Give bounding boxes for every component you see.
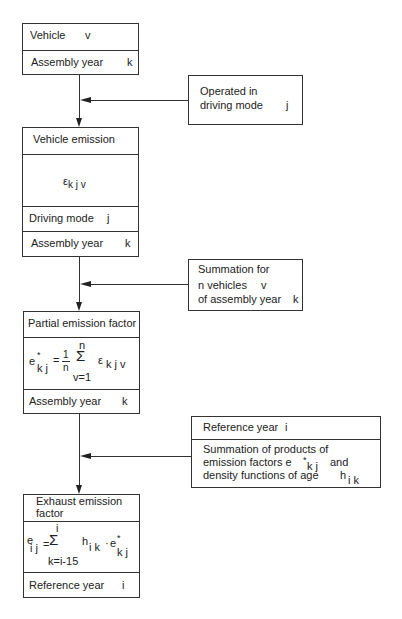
vehicle-box: Vehicle v Assembly year k	[22, 23, 139, 75]
exhaust-formula-cell: e i j = i Σ k=i-15 h i k · e * k j	[24, 521, 139, 572]
epsilon-formula: εk j v	[63, 175, 86, 188]
sigma-icon: Σ	[49, 533, 58, 546]
products-line-3: density functions of age	[203, 469, 319, 482]
summation-line-1: Summation for	[198, 263, 270, 275]
reference-year-label: Reference year	[203, 421, 278, 434]
frac-num: 1	[63, 348, 69, 361]
products-e-star: *	[303, 454, 307, 467]
partial-emission-formula-cell: e * k j = 1 n n Σ v=1 ε k j v	[24, 337, 139, 389]
connector-3-4	[79, 413, 80, 486]
exhaust-line-2: factor	[36, 507, 64, 520]
arrow-down-icon	[76, 302, 82, 311]
reference-year-header: Reference year i	[192, 417, 380, 439]
sum-lower: k=i-15	[48, 555, 78, 568]
assembly-year-cell: Assembly year k	[23, 231, 138, 257]
vehicle-label: Vehicle	[30, 29, 65, 42]
products-line-1: Summation of products of	[203, 443, 328, 456]
partial-emission-label: Partial emission factor	[28, 317, 136, 330]
summation-products-cell: Summation of products of emission factor…	[192, 439, 380, 488]
partial-emission-header: Partial emission factor	[24, 312, 139, 337]
frac-den: n	[63, 361, 69, 374]
vehicle-emission-box: Vehicle emission εk j v Driving mode j A…	[22, 127, 139, 257]
arrow-left-icon	[80, 281, 91, 287]
reference-year-var: i	[285, 421, 287, 434]
operated-line-1: Operated in	[200, 85, 257, 97]
vehicle-emission-header: Vehicle emission	[23, 128, 138, 154]
arrow-left-icon	[80, 97, 91, 103]
arrow-left-icon	[80, 453, 91, 459]
e2-star: *	[117, 532, 121, 545]
summation-line-3: of assembly year	[198, 293, 281, 305]
epsilon-subscript: k j v	[68, 179, 86, 190]
exhaust-emission-header: Exhaust emission factor	[24, 495, 139, 521]
operated-in-driving-mode-box: Operated in driving mode j	[188, 75, 303, 125]
lhs-star: *	[37, 349, 41, 362]
equals: =	[53, 354, 59, 367]
driving-mode-cell: Driving mode j	[23, 206, 138, 231]
side-connector-3	[90, 456, 191, 457]
assembly-year-label: Assembly year	[31, 56, 103, 69]
h-term: h	[82, 535, 88, 548]
lhs-e: e	[29, 355, 35, 368]
assembly-year-cell: Assembly year k	[23, 50, 138, 75]
vehicle-emission-formula-cell: εk j v	[23, 154, 138, 206]
vehicle-emission-label: Vehicle emission	[33, 133, 115, 146]
products-line-2: emission factors e	[203, 456, 292, 469]
summation-line-2: n vehicles	[198, 279, 247, 291]
vehicle-cell: Vehicle v	[23, 24, 138, 50]
connector-2-3	[79, 256, 80, 303]
products-h: h	[340, 469, 346, 482]
lhs-sub: i j	[30, 542, 38, 555]
reference-year-cell: Reference year i	[24, 572, 139, 598]
assembly-year-label: Assembly year	[31, 237, 103, 250]
sum-lower: v=1	[73, 371, 91, 384]
operated-var: j	[286, 99, 288, 111]
summation-var-v: v	[261, 279, 267, 291]
dot: ·	[105, 537, 109, 550]
assembly-year-label: Assembly year	[29, 395, 101, 408]
side-connector-2	[90, 284, 188, 285]
driving-mode-var: j	[107, 212, 109, 225]
assembly-year-var: k	[127, 56, 133, 69]
partial-emission-factor-box: Partial emission factor e * k j = 1 n n …	[23, 311, 140, 414]
assembly-year-var: k	[125, 237, 131, 250]
h-sub: i k	[89, 541, 100, 554]
e2-term: e	[110, 537, 116, 550]
vehicle-var: v	[85, 29, 91, 42]
arrow-down-icon	[76, 118, 82, 127]
reference-year-var: i	[122, 579, 124, 592]
exhaust-emission-factor-box: Exhaust emission factor e i j = i Σ k=i-…	[23, 494, 140, 598]
lhs-sub: k j	[37, 362, 48, 375]
sigma-icon: Σ	[76, 349, 85, 362]
e2-sub: k j	[117, 546, 128, 559]
driving-mode-label: Driving mode	[29, 212, 94, 225]
reference-year-summation-box: Reference year i Summation of products o…	[191, 416, 381, 488]
assembly-year-var: k	[122, 395, 128, 408]
products-h-sub: i k	[348, 474, 359, 487]
products-and: and	[330, 456, 348, 469]
summation-var-k: k	[293, 293, 299, 305]
side-connector-1	[90, 100, 188, 101]
reference-year-label: Reference year	[29, 579, 104, 592]
arrow-down-icon	[76, 485, 82, 494]
operated-line-2: driving mode	[200, 99, 263, 111]
summation-for-vehicles-box: Summation for n vehicles v of assembly y…	[188, 259, 303, 311]
term-sub: k j v	[106, 358, 126, 371]
assembly-year-cell: Assembly year k	[24, 389, 139, 414]
term-epsilon: ε	[98, 354, 103, 367]
